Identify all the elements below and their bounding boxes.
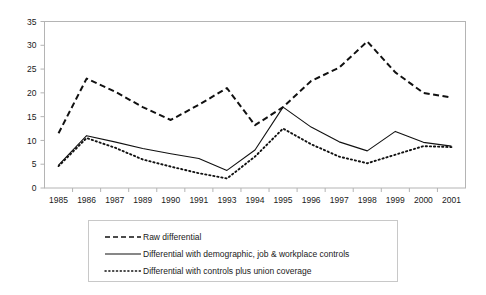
legend-key-dashed-icon: [103, 232, 143, 242]
plot-frame: [45, 22, 466, 189]
y-axis-labels: 05101520253035: [27, 17, 37, 194]
x-tick-label: 1993: [217, 195, 236, 205]
x-tick-label: 1989: [133, 195, 152, 205]
y-tick-label: 20: [27, 88, 37, 98]
legend-key-solid-icon: [103, 249, 143, 259]
legend-item-raw-differential: Raw differential: [89, 228, 397, 245]
y-tick-label: 0: [32, 183, 37, 193]
legend-label-controls: Differential with demographic, job & wor…: [143, 249, 349, 259]
legend-label-union-coverage: Differential with controls plus union co…: [143, 266, 312, 276]
y-tick-label: 10: [27, 136, 37, 146]
plot-border: [45, 22, 466, 189]
chart-container: 05101520253035 1985198619871989199019911…: [0, 0, 486, 295]
plot-area-wrapper: 05101520253035 1985198619871989199019911…: [0, 0, 486, 215]
legend-item-controls: Differential with demographic, job & wor…: [89, 245, 397, 262]
x-tick-label: 1990: [161, 195, 180, 205]
x-tick-label: 1995: [274, 195, 293, 205]
x-axis-ticks: [73, 188, 438, 192]
x-tick-label: 1986: [77, 195, 96, 205]
y-tick-label: 25: [27, 64, 37, 74]
chart-legend: Raw differential Differential with demog…: [88, 220, 398, 282]
line-chart: 05101520253035 1985198619871989199019911…: [0, 0, 486, 215]
x-tick-label: 1997: [330, 195, 349, 205]
x-tick-label: 2001: [442, 195, 461, 205]
x-tick-label: 1998: [358, 195, 377, 205]
x-axis-labels: 1985198619871989199019911993199419951996…: [49, 195, 461, 205]
x-tick-label: 1996: [302, 195, 321, 205]
legend-item-union-coverage: Differential with controls plus union co…: [89, 262, 397, 279]
x-tick-label: 1991: [189, 195, 208, 205]
x-tick-label: 1994: [246, 195, 265, 205]
y-tick-label: 5: [32, 159, 37, 169]
legend-key-dotted-icon: [103, 266, 143, 276]
x-tick-label: 2000: [414, 195, 433, 205]
y-tick-label: 30: [27, 40, 37, 50]
legend-label-raw-differential: Raw differential: [143, 232, 201, 242]
y-tick-label: 35: [27, 17, 37, 27]
y-tick-label: 15: [27, 112, 37, 122]
x-tick-label: 1999: [386, 195, 405, 205]
x-tick-label: 1985: [49, 195, 68, 205]
x-tick-label: 1987: [105, 195, 124, 205]
y-axis-ticks: [41, 22, 45, 189]
